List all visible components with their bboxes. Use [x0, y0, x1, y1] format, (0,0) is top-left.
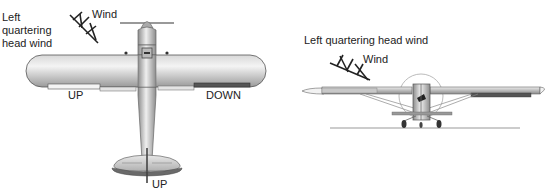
right-view-title: Left quartering head wind: [304, 34, 428, 46]
cockpit-detail: [144, 52, 150, 54]
left-flap: [100, 87, 136, 91]
title-line-1: Left: [2, 11, 52, 24]
elevator-label: UP: [152, 178, 167, 190]
title-line-3: head wind: [2, 37, 52, 50]
left-wheel: [402, 120, 407, 128]
left-view-title: Left quartering head wind: [2, 11, 52, 50]
wind-label: Wind: [363, 53, 388, 65]
right-wheel: [437, 120, 442, 128]
left-wing-tip: [302, 88, 324, 94]
cowling: [138, 27, 156, 45]
strut-attach-right: [165, 51, 168, 54]
right-aileron-down: [471, 93, 531, 97]
right-wing-tip: [540, 87, 545, 94]
right-aileron-down: [194, 83, 250, 87]
diagram-canvas: [0, 0, 557, 193]
front-view-airplane: [302, 55, 545, 128]
title-line-2: quartering: [2, 24, 52, 37]
left-aileron-up: [322, 88, 377, 93]
right-aileron-label: DOWN: [206, 89, 241, 101]
cabin-section: [138, 55, 156, 87]
right-flap: [158, 86, 194, 90]
tail-wheel: [419, 122, 422, 128]
tail-plane: [392, 112, 452, 115]
left-aileron-label: UP: [68, 89, 83, 101]
wind-label: Wind: [92, 8, 117, 20]
strut-attach-left: [124, 51, 127, 54]
